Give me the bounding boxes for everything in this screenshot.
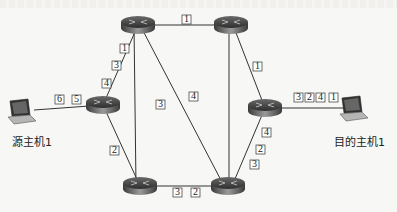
packet-label: 6 bbox=[57, 93, 62, 104]
packet-label: 3 bbox=[175, 186, 180, 197]
packet-label: 4 bbox=[264, 126, 269, 137]
packet-label: 3 bbox=[114, 59, 119, 70]
packet-label: 3 bbox=[252, 158, 257, 169]
packet-label: 2 bbox=[258, 143, 263, 154]
router-bottom-right bbox=[211, 177, 245, 195]
source-host-label: 源主机1 bbox=[12, 133, 52, 149]
packet-label: 1 bbox=[331, 91, 336, 102]
packet-label: 4 bbox=[191, 90, 196, 101]
router-right bbox=[248, 99, 282, 117]
packet-label: 1 bbox=[255, 60, 260, 71]
packet-label: 1 bbox=[122, 42, 127, 53]
source-laptop-icon bbox=[8, 99, 36, 124]
packet-label: 4 bbox=[104, 77, 109, 88]
packet-label: 2 bbox=[307, 91, 312, 102]
router-bottom-left bbox=[123, 177, 157, 195]
router-left bbox=[86, 96, 120, 114]
router-top-left bbox=[121, 16, 155, 34]
links bbox=[34, 25, 345, 186]
packet-label: 5 bbox=[74, 93, 79, 104]
packet-label: 3 bbox=[158, 98, 163, 109]
destination-laptop-icon bbox=[340, 96, 368, 121]
packet-label: 1 bbox=[184, 13, 189, 24]
router-top-right bbox=[214, 16, 248, 34]
network-diagram bbox=[0, 0, 397, 212]
destination-host-label: 目的主机1 bbox=[334, 133, 385, 149]
packet-label: 2 bbox=[112, 144, 117, 155]
packet-label: 2 bbox=[193, 186, 198, 197]
packet-label: 3 bbox=[296, 91, 301, 102]
packet-label: 4 bbox=[318, 91, 323, 102]
